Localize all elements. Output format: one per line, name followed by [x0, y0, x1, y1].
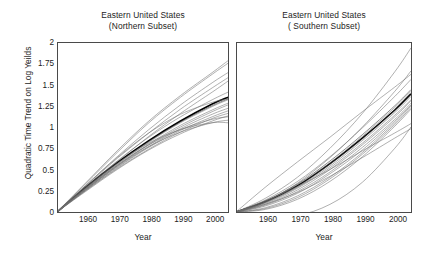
curve-southern-state-5 [236, 90, 411, 212]
curve-group-southern [236, 48, 411, 213]
x-tick-north-1990: 1990 [174, 215, 192, 224]
x-tick-north-1980: 1980 [142, 215, 160, 224]
x-tick-south-1990: 1990 [356, 215, 374, 224]
panel-title-southern-line1: Eastern United States [236, 10, 412, 21]
y-tick-6: 1.5 [43, 80, 54, 89]
curve-southern-state-17 [236, 129, 411, 212]
x-tick-south-2000: 2000 [389, 215, 407, 224]
y-tick-3: 0.75 [38, 144, 54, 153]
x-tick-north-2000: 2000 [206, 215, 224, 224]
y-tick-2: 0.5 [43, 165, 54, 174]
curve-southern-state-10 [236, 101, 411, 212]
panel-title-northern: Eastern United States (Northern Subset) [57, 10, 229, 31]
curve-northern-state-14 [57, 116, 228, 212]
y-tick-0: 0 [49, 208, 54, 217]
curve-northern-state-9 [57, 103, 228, 212]
curve-northern-state-16 [57, 120, 228, 212]
curve-northern-state-8 [57, 100, 228, 212]
curve-group-northern [57, 61, 228, 212]
plot-frame-southern [237, 43, 412, 213]
figure-quadratic-time-trends: Quadratic Time Trend on Log Yeilds 0 0.2… [0, 0, 423, 264]
plot-area-northern [57, 42, 229, 213]
plot-frame-northern [58, 43, 229, 213]
curve-southern-state-12 [236, 105, 411, 212]
curve-southern-mean [236, 94, 411, 212]
curve-southern-state-4 [236, 79, 411, 212]
y-tick-8: 2 [49, 38, 54, 47]
x-tick-south-1980: 1980 [324, 215, 342, 224]
curve-northern-state-18 [57, 99, 228, 212]
y-tick-1: 0.25 [38, 186, 54, 195]
x-tick-south-1970: 1970 [291, 215, 309, 224]
curve-northern-state-11 [57, 108, 228, 212]
y-tick-5: 1.25 [38, 101, 54, 110]
curve-southern-state-7 [236, 95, 411, 212]
curve-northern-state-15 [57, 117, 228, 212]
curve-southern-state-3 [236, 71, 411, 212]
y-axis-tick-labels: 0 0.25 0.5 0.75 1 1.25 1.5 1.75 2 [18, 0, 54, 264]
plot-area-southern [236, 42, 412, 213]
panel-title-northern-line1: Eastern United States [57, 10, 229, 21]
curve-northern-state-17 [57, 122, 228, 212]
plot-svg-southern [236, 42, 412, 213]
curve-southern-state-6 [236, 91, 411, 212]
panel-title-southern-line2: ( Southern Subset) [236, 21, 412, 32]
x-tick-north-1960: 1960 [79, 215, 97, 224]
x-tick-south-1960: 1960 [259, 215, 277, 224]
panel-title-southern: Eastern United States ( Southern Subset) [236, 10, 412, 31]
curve-northern-state-7 [57, 99, 228, 212]
y-tick-4: 1 [49, 123, 54, 132]
curve-southern-state-15 [236, 109, 411, 212]
panel-title-northern-line2: (Northern Subset) [57, 21, 229, 32]
x-axis-label-northern: Year [83, 232, 203, 242]
plot-svg-northern [57, 42, 229, 213]
curve-northern-state-6 [57, 92, 228, 212]
curve-southern-state-2 [236, 74, 411, 212]
x-tick-north-1970: 1970 [111, 215, 129, 224]
curve-northern-state-12 [57, 111, 228, 212]
y-tick-7: 1.75 [38, 59, 54, 68]
x-axis-label-southern: Year [264, 232, 384, 242]
